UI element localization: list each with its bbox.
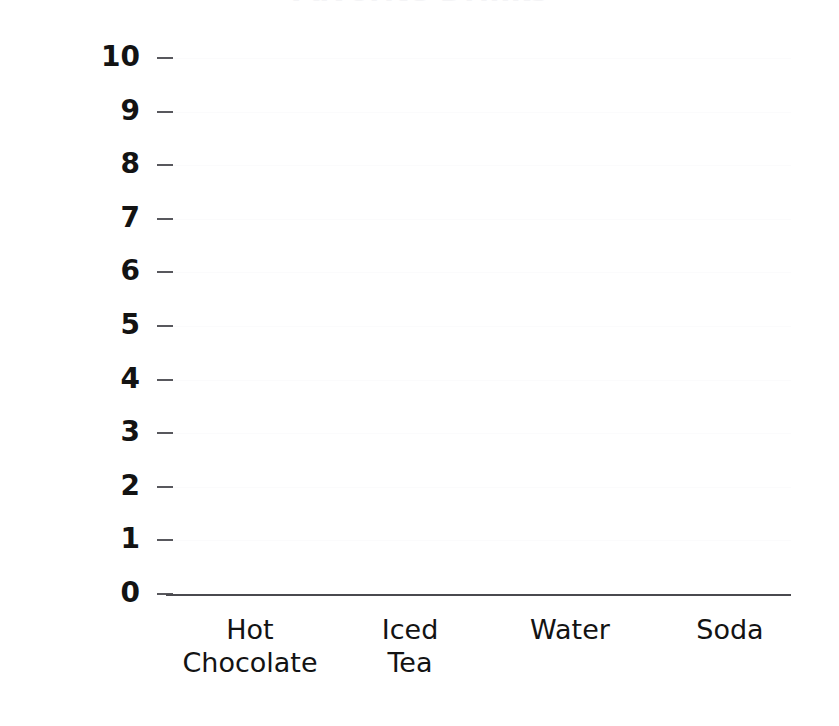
y-axis-tick-label: 8 bbox=[80, 150, 140, 180]
y-axis-tick bbox=[157, 432, 173, 434]
y-axis-tick-label: 6 bbox=[80, 257, 140, 287]
y-axis-tick-label-text: 9 bbox=[80, 97, 140, 125]
y-axis-tick-label-text: 5 bbox=[80, 311, 140, 339]
y-axis-tick-label-text: 3 bbox=[80, 418, 140, 446]
y-axis-tick-label-text: 7 bbox=[80, 204, 140, 232]
x-axis-category-label: HotChocolate bbox=[182, 614, 317, 680]
y-axis-tick bbox=[157, 379, 173, 381]
y-axis-tick-label-text: 4 bbox=[80, 365, 140, 393]
y-axis-tick-label-text: 2 bbox=[80, 472, 140, 500]
y-axis-tick-label: 2 bbox=[80, 472, 140, 502]
y-axis-tick-label: 9 bbox=[80, 97, 140, 127]
x-axis-category-label: Water bbox=[530, 614, 610, 647]
x-axis-category-label-line1: Soda bbox=[696, 614, 763, 645]
plot-area bbox=[166, 58, 791, 595]
y-axis-tick-label: 3 bbox=[80, 418, 140, 448]
y-axis-tick bbox=[157, 271, 173, 273]
y-axis-tick bbox=[157, 486, 173, 488]
y-axis-tick-label-text: 8 bbox=[80, 150, 140, 178]
y-axis-tick-label-text: 1 bbox=[80, 525, 140, 553]
y-axis-tick-label-text: 0 bbox=[80, 579, 140, 607]
bars-layer bbox=[166, 58, 791, 595]
y-axis-tick bbox=[157, 111, 173, 113]
y-axis-tick-label: 0 bbox=[80, 579, 140, 609]
y-axis-tick-label-text: 6 bbox=[80, 257, 140, 285]
y-axis-tick-label: 1 bbox=[80, 525, 140, 555]
y-axis-tick bbox=[157, 325, 173, 327]
x-axis-category-label-line2: Chocolate bbox=[182, 647, 317, 680]
y-axis-tick-label: 10 bbox=[80, 43, 140, 73]
y-axis-tick bbox=[157, 539, 173, 541]
y-axis-tick bbox=[157, 218, 173, 220]
chart-title-clipped: Favorite Drinks bbox=[0, 0, 839, 8]
x-axis-baseline bbox=[166, 594, 791, 596]
y-axis-tick-label: 7 bbox=[80, 204, 140, 234]
y-axis-tick bbox=[157, 164, 173, 166]
bar-chart-figure: Favorite Drinks Number of Students 10987… bbox=[0, 0, 839, 726]
x-axis-category-label-line2: Tea bbox=[382, 647, 439, 680]
y-axis-tick bbox=[157, 57, 173, 59]
x-axis-category-label-line1: Water bbox=[530, 614, 610, 645]
y-axis-tick-label: 4 bbox=[80, 365, 140, 395]
y-axis-tick-label: 5 bbox=[80, 311, 140, 341]
x-axis-category-label: Soda bbox=[696, 614, 763, 647]
x-axis-category-label: IcedTea bbox=[382, 614, 439, 680]
x-axis-category-label-line1: Hot bbox=[226, 614, 273, 645]
y-axis-tick-label-text: 10 bbox=[80, 43, 140, 71]
x-axis-category-label-line1: Iced bbox=[382, 614, 439, 645]
